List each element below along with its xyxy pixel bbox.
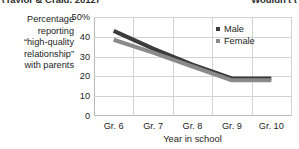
plot-area: 01020304050% Gr. 6Gr. 7Gr. 8Gr. 9Gr. 10 bbox=[94, 17, 291, 116]
y-tick-label: 0 bbox=[85, 111, 90, 121]
y-tick-label: 20 bbox=[80, 71, 90, 81]
x-tick-label: Gr. 6 bbox=[104, 121, 124, 131]
gridline-vertical bbox=[291, 17, 292, 116]
y-axis-title-line: with parents bbox=[0, 60, 74, 72]
y-axis-title-line: “high-quality bbox=[0, 37, 74, 49]
y-axis-title-line: Percentage bbox=[0, 14, 74, 26]
chart-figure: (Taylor & Craig, 2012) Wouldn't t Percen… bbox=[0, 0, 299, 149]
series-lines bbox=[94, 17, 291, 116]
y-tick-label: 40 bbox=[80, 32, 90, 42]
y-tick-label: 30 bbox=[80, 52, 90, 62]
x-tick-label: Gr. 7 bbox=[143, 121, 163, 131]
y-tick-label: 10 bbox=[80, 91, 90, 101]
x-tick-label: Gr. 9 bbox=[222, 121, 242, 131]
y-tick-label: 50% bbox=[72, 12, 90, 22]
y-axis-title-line: relationship” bbox=[0, 49, 74, 61]
x-tick-label: Gr. 8 bbox=[183, 121, 203, 131]
y-axis-title-line: reporting bbox=[0, 26, 74, 38]
legend-swatch-icon bbox=[216, 27, 220, 31]
legend-label: Male bbox=[224, 24, 244, 34]
x-axis-title: Year in school bbox=[94, 133, 291, 144]
x-tick-label: Gr. 10 bbox=[259, 121, 284, 131]
y-axis-title: Percentage reporting “high-quality relat… bbox=[0, 14, 74, 72]
chart-legend: MaleFemale bbox=[216, 23, 255, 47]
legend-label: Female bbox=[224, 36, 255, 46]
caption-fragment-top-left: (Taylor & Craig, 2012) bbox=[2, 0, 99, 3]
legend-swatch-icon bbox=[216, 39, 220, 43]
legend-item-female[interactable]: Female bbox=[216, 35, 255, 47]
caption-fragment-top-right: Wouldn't t bbox=[251, 0, 297, 3]
legend-item-male[interactable]: Male bbox=[216, 23, 255, 35]
